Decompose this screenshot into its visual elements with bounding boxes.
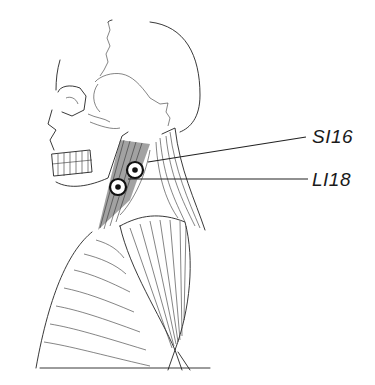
acupoint-layer — [0, 0, 375, 385]
marker-li18-icon — [110, 179, 126, 195]
leader-line-si16 — [148, 137, 306, 162]
label-li18: LI18 — [312, 170, 351, 189]
anatomy-diagram: SI16 LI18 — [0, 0, 375, 385]
marker-si16-icon — [127, 162, 143, 178]
label-si16: SI16 — [312, 127, 353, 146]
